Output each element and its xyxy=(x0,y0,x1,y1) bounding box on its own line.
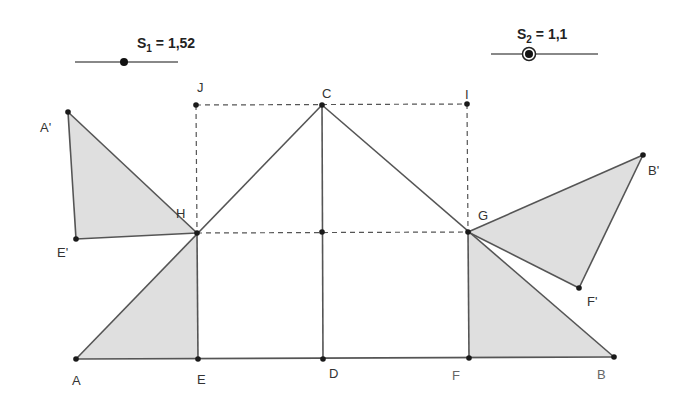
label-point-f-prime: F' xyxy=(587,295,597,308)
dashed-segment-hg xyxy=(197,232,468,233)
label-point-b-prime: B' xyxy=(648,164,659,177)
label-point-f: F xyxy=(452,369,460,382)
label-point-g: G xyxy=(478,209,488,222)
label-point-e: E xyxy=(197,373,206,386)
label-point-c: C xyxy=(322,87,331,100)
dashed-segment-ig xyxy=(467,104,468,232)
label-point-a: A xyxy=(72,374,81,387)
label-point-j: J xyxy=(197,81,204,94)
point-i[interactable] xyxy=(464,101,470,107)
point-b[interactable] xyxy=(611,354,617,360)
dashed-rectangle xyxy=(196,104,468,233)
point-f-prime[interactable] xyxy=(576,285,582,291)
label-point-e-prime: E' xyxy=(57,246,68,259)
slider-2-name: S xyxy=(517,26,526,42)
point-h[interactable] xyxy=(194,230,200,236)
label-point-b: B xyxy=(597,368,606,381)
point-e-prime[interactable] xyxy=(73,236,79,242)
slider-1-value: 1,52 xyxy=(168,35,195,51)
point-m[interactable] xyxy=(319,229,325,235)
point-b-prime[interactable] xyxy=(640,152,646,158)
segment-fg xyxy=(468,232,469,358)
slider-2-equals: = xyxy=(532,26,548,42)
slider-1-name: S xyxy=(137,35,146,51)
slider-2-label: S2 = 1,1 xyxy=(517,27,567,45)
slider-1-knob[interactable] xyxy=(120,58,128,66)
slider-2-value: 1,1 xyxy=(548,26,567,42)
point-e[interactable] xyxy=(195,356,201,362)
slider-2-knob[interactable] xyxy=(525,50,533,58)
segment-eh xyxy=(197,233,198,359)
point-f[interactable] xyxy=(466,355,472,361)
label-point-a-prime: A' xyxy=(40,121,51,134)
point-d[interactable] xyxy=(320,356,326,362)
dashed-segment-jh xyxy=(196,105,197,233)
label-point-h: H xyxy=(176,207,185,220)
point-c[interactable] xyxy=(319,102,325,108)
slider-1-equals: = xyxy=(152,35,168,51)
point-a-prime[interactable] xyxy=(65,109,71,115)
dashed-segment-ji xyxy=(196,104,467,105)
point-j[interactable] xyxy=(193,102,199,108)
label-point-i: I xyxy=(465,88,469,101)
slider-1-label: S1 = 1,52 xyxy=(137,36,195,54)
geometry-canvas xyxy=(0,0,690,407)
point-a[interactable] xyxy=(73,356,79,362)
point-g[interactable] xyxy=(465,229,471,235)
label-point-d: D xyxy=(329,367,338,380)
